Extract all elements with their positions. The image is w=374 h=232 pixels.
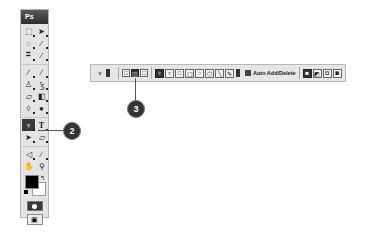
divider xyxy=(22,61,48,65)
callout-3: 3 xyxy=(127,100,145,118)
move-tool-icon[interactable]: ➤ xyxy=(35,25,48,37)
auto-add-delete-label: Auto Add/Delete xyxy=(253,70,296,76)
default-colors-icon[interactable] xyxy=(24,190,28,194)
rectangle-tool-button[interactable]: □ xyxy=(175,69,184,78)
foreground-color-swatch[interactable] xyxy=(25,175,39,189)
auto-add-delete-checkbox[interactable]: Auto Add/Delete xyxy=(245,70,296,76)
fill-pixels-button[interactable]: □ xyxy=(140,69,148,77)
lasso-tool-icon[interactable]: ◌ xyxy=(22,37,35,49)
path-selection-tool-icon[interactable]: ➤ xyxy=(22,131,35,143)
custom-shape-tool-icon[interactable]: ▱ xyxy=(35,131,48,143)
crop-tool-icon[interactable]: ⌗ xyxy=(22,49,35,61)
divider xyxy=(118,67,119,79)
brush-tool-icon[interactable]: ∕ xyxy=(35,66,48,78)
options-bar: ♆ □ ◫ □ ♆ ♆ □ ▢ ○ ⬡ ╲ ✎ Auto Add/Delete … xyxy=(90,64,346,82)
magic-wand-tool-icon[interactable]: ⁄ xyxy=(35,37,48,49)
tool-preset-icon[interactable]: ♆ xyxy=(95,67,105,79)
pen-tool-icon[interactable]: ♆ xyxy=(22,119,35,131)
hand-tool-icon[interactable]: ✋ xyxy=(22,160,35,172)
ellipse-tool-button[interactable]: ○ xyxy=(195,69,204,78)
quick-mask-icon xyxy=(32,204,37,209)
zoom-tool-icon[interactable]: ⚲ xyxy=(35,160,48,172)
dodge-tool-icon[interactable]: ● xyxy=(35,102,48,114)
callout-2-leader xyxy=(38,130,64,131)
color-swatches: ↰ xyxy=(25,175,48,199)
eyedropper-tool-icon[interactable]: ∕ xyxy=(35,148,48,160)
divider xyxy=(151,67,152,79)
pen-tool-button[interactable]: ♆ xyxy=(155,69,164,78)
add-to-path-button[interactable]: ■ xyxy=(303,69,312,78)
intersect-path-button[interactable]: ◘ xyxy=(323,69,332,78)
shape-layers-button[interactable]: □ xyxy=(122,69,130,77)
blur-tool-icon[interactable]: ◊ xyxy=(22,102,35,114)
custom-shape-tool-button[interactable]: ✎ xyxy=(225,69,234,78)
screen-mode-button[interactable]: ▣ xyxy=(27,214,43,225)
divider xyxy=(299,67,300,79)
slice-tool-icon[interactable]: ⁄ xyxy=(35,49,48,61)
history-brush-tool-icon[interactable]: Ꝣ xyxy=(35,78,48,90)
healing-brush-tool-icon[interactable]: ∕ xyxy=(22,66,35,78)
clone-stamp-tool-icon[interactable]: ♙ xyxy=(22,78,35,90)
tool-preset-dropdown[interactable] xyxy=(106,69,110,77)
tools-panel: Ps ⬚ ➤ ◌ ⁄ ⌗ ⁄ ∕ ∕ ♙ Ꝣ ▱ ◧ ◊ ● ♆ T ➤ ▱ ◁… xyxy=(20,9,49,218)
paths-button[interactable]: ◫ xyxy=(131,69,139,77)
swap-colors-icon[interactable]: ↰ xyxy=(40,174,45,181)
checkbox-checked[interactable] xyxy=(245,70,251,76)
subtract-from-path-button[interactable]: ◩ xyxy=(313,69,322,78)
eraser-tool-icon[interactable]: ▱ xyxy=(22,90,35,102)
divider xyxy=(22,143,48,147)
freeform-pen-tool-button[interactable]: ♆ xyxy=(165,69,174,78)
quick-mask-button[interactable] xyxy=(27,201,43,211)
app-logo: Ps xyxy=(25,13,34,20)
line-tool-button[interactable]: ╲ xyxy=(215,69,224,78)
rounded-rectangle-tool-button[interactable]: ▢ xyxy=(185,69,194,78)
callout-3-leader xyxy=(135,78,136,101)
geometry-options-dropdown[interactable] xyxy=(236,69,240,77)
marquee-tool-icon[interactable]: ⬚ xyxy=(22,25,35,37)
tool-grid: ⬚ ➤ ◌ ⁄ ⌗ ⁄ ∕ ∕ ♙ Ꝣ ▱ ◧ ◊ ● ♆ T ➤ ▱ ◁ ∕ … xyxy=(21,24,48,172)
notes-tool-icon[interactable]: ◁ xyxy=(22,148,35,160)
exclude-path-button[interactable]: ◙ xyxy=(333,69,342,78)
toolbox-header: Ps xyxy=(21,10,48,24)
divider xyxy=(22,114,48,118)
callout-2: 2 xyxy=(63,122,81,140)
polygon-tool-button[interactable]: ⬡ xyxy=(205,69,214,78)
gradient-tool-icon[interactable]: ◧ xyxy=(35,90,48,102)
